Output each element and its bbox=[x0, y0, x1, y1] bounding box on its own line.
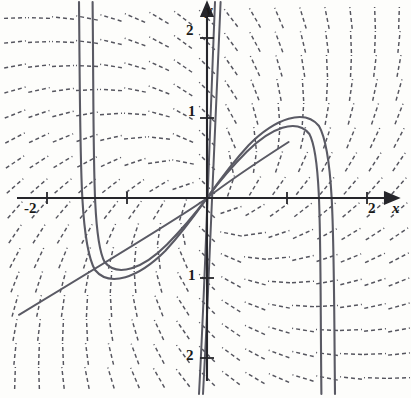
y-tick-label-minus2: 2 bbox=[186, 347, 194, 364]
y-tick-label-minus1: 1 bbox=[188, 267, 196, 284]
y-tick-label-plus1: 1 bbox=[188, 103, 196, 120]
x-tick-label-plus2: 2 bbox=[368, 200, 376, 217]
x-axis-label: x bbox=[392, 200, 400, 217]
y-tick-label-plus2: 2 bbox=[186, 22, 194, 39]
direction-field-plot bbox=[0, 0, 411, 398]
y-axis-label: y bbox=[206, 2, 213, 19]
x-tick-label-minus2: -2 bbox=[24, 200, 37, 217]
direction-field-figure: y x -2 2 2 1 1 2 bbox=[0, 0, 411, 398]
